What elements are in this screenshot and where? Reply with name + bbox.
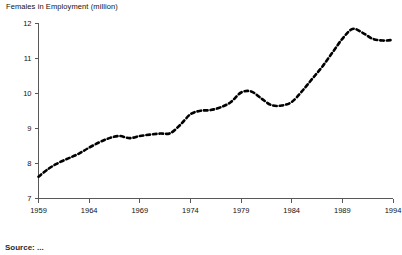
x-tick-label: 1989 [334,206,351,215]
x-tick-label: 1984 [283,206,300,215]
x-tick-label: 1974 [182,206,199,215]
chart-figure: Females in Employment (million) 12111098… [0,0,402,255]
x-tick-label: 1969 [131,206,148,215]
y-tick-label: 8 [27,159,31,168]
y-tick-label: 11 [24,54,32,63]
x-tick-label: 1994 [385,206,402,215]
y-tick-label: 10 [23,89,31,98]
source-note: Source: ... [5,243,401,255]
y-tick-label: 9 [27,124,31,133]
x-tick-group: 19591964196919741979198419891994 [30,199,401,215]
x-tick-label: 1959 [30,206,47,215]
data-series-line [39,29,394,177]
y-tick-label: 7 [27,194,31,203]
y-tick-label: 12 [23,19,31,28]
x-tick-label: 1964 [81,206,98,215]
chart-plot-area: 121110987 195919641969197419791984198919… [0,0,402,240]
x-tick-label: 1979 [233,206,250,215]
y-tick-group: 121110987 [23,19,38,204]
